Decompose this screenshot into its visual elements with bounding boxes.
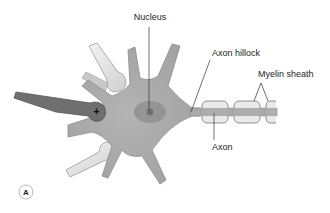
myelin-leader-1 [254, 83, 261, 101]
nucleus-label: Nucleus [134, 12, 167, 22]
panel-letter: A [23, 188, 29, 197]
myelin-sheath [200, 101, 277, 123]
myelin-leader-2 [261, 83, 268, 101]
panel-label: A [19, 185, 33, 199]
nucleolus [147, 109, 153, 115]
axon-label: Axon [212, 142, 233, 152]
synapse-plus-symbol: + [93, 105, 99, 117]
nucleus [134, 101, 166, 123]
excitatory-terminal [14, 92, 106, 121]
neuron-diagram: + Nucleus Axon hillock Myelin sheath Axo… [0, 0, 330, 213]
axon-hillock-label: Axon hillock [212, 48, 261, 58]
myelin-sheath-label: Myelin sheath [258, 69, 314, 79]
